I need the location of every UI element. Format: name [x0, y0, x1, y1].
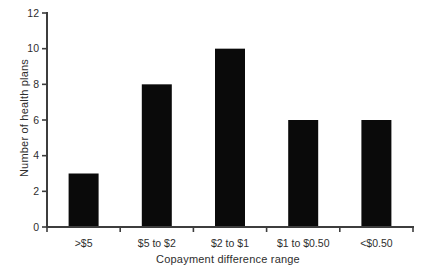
bars-group: [69, 49, 392, 227]
bar-4: [288, 120, 318, 227]
y-axis-title: Number of health plans: [18, 59, 30, 177]
bar-5: [361, 120, 391, 227]
y-tick-label: 6: [33, 114, 39, 126]
y-tick-label: 2: [33, 185, 39, 197]
bar-1: [69, 174, 99, 228]
y-tick-label: 10: [27, 42, 39, 54]
x-category-label: $5 to $2: [138, 237, 176, 249]
x-axis-title: Copayment difference range: [156, 253, 300, 265]
y-tick-label: 4: [33, 149, 39, 161]
x-category-label: <$0.50: [360, 237, 393, 249]
x-category-label: $1 to $0.50: [277, 237, 330, 249]
y-tick-label: 8: [33, 78, 39, 90]
x-category-label: >$5: [75, 237, 93, 249]
x-category-label: $2 to $1: [211, 237, 249, 249]
bar-2: [142, 84, 172, 227]
bar-3: [215, 49, 245, 227]
y-tick-label: 0: [33, 221, 39, 233]
bar-chart: 024681012>$5$5 to $2$2 to $1$1 to $0.50<…: [0, 0, 431, 280]
bar-chart-figure: 024681012>$5$5 to $2$2 to $1$1 to $0.50<…: [0, 0, 431, 280]
y-tick-label: 12: [27, 7, 39, 19]
